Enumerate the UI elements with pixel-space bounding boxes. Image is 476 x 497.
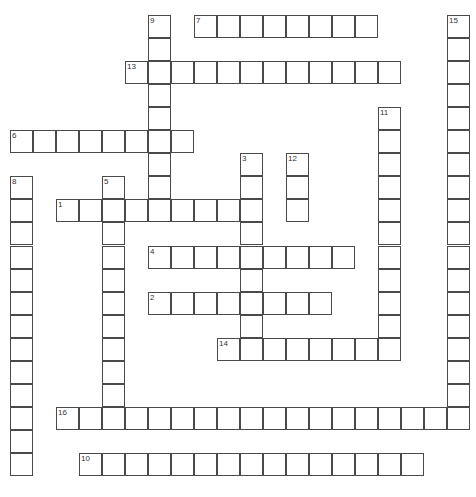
crossword-cell[interactable] [332, 453, 355, 476]
crossword-cell[interactable] [355, 407, 378, 430]
crossword-cell[interactable] [79, 199, 102, 222]
crossword-cell[interactable] [240, 199, 263, 222]
crossword-cell[interactable]: 4 [148, 246, 171, 269]
crossword-cell[interactable] [171, 61, 194, 84]
crossword-cell[interactable] [102, 269, 125, 292]
crossword-cell[interactable]: 1 [56, 199, 79, 222]
crossword-cell[interactable]: 11 [378, 107, 401, 130]
crossword-cell[interactable] [102, 384, 125, 407]
crossword-cell[interactable] [194, 199, 217, 222]
crossword-cell[interactable] [401, 407, 424, 430]
crossword-cell[interactable] [102, 199, 125, 222]
crossword-cell[interactable] [194, 61, 217, 84]
crossword-cell[interactable] [171, 130, 194, 153]
crossword-cell[interactable] [263, 292, 286, 315]
crossword-cell[interactable] [332, 407, 355, 430]
crossword-cell[interactable] [79, 130, 102, 153]
crossword-cell[interactable] [332, 246, 355, 269]
crossword-cell[interactable] [148, 176, 171, 199]
crossword-cell[interactable] [286, 292, 309, 315]
crossword-cell[interactable] [148, 453, 171, 476]
crossword-cell[interactable] [378, 130, 401, 153]
crossword-cell[interactable] [286, 407, 309, 430]
crossword-cell[interactable] [33, 130, 56, 153]
crossword-cell[interactable] [447, 130, 470, 153]
crossword-cell[interactable] [10, 384, 33, 407]
crossword-cell[interactable] [332, 15, 355, 38]
crossword-cell[interactable] [309, 246, 332, 269]
crossword-cell[interactable] [286, 246, 309, 269]
crossword-cell[interactable] [240, 61, 263, 84]
crossword-cell[interactable] [10, 199, 33, 222]
crossword-cell[interactable] [309, 453, 332, 476]
crossword-cell[interactable] [378, 453, 401, 476]
crossword-cell[interactable] [171, 199, 194, 222]
crossword-cell[interactable]: 3 [240, 153, 263, 176]
crossword-cell[interactable] [263, 15, 286, 38]
crossword-cell[interactable] [148, 84, 171, 107]
crossword-cell[interactable] [194, 246, 217, 269]
crossword-cell[interactable] [447, 153, 470, 176]
crossword-cell[interactable] [10, 315, 33, 338]
crossword-cell[interactable] [10, 407, 33, 430]
crossword-cell[interactable] [378, 338, 401, 361]
crossword-cell[interactable] [424, 407, 447, 430]
crossword-cell[interactable] [378, 222, 401, 245]
crossword-cell[interactable] [447, 407, 470, 430]
crossword-cell[interactable] [171, 292, 194, 315]
crossword-cell[interactable] [10, 361, 33, 384]
crossword-cell[interactable] [378, 61, 401, 84]
crossword-cell[interactable] [217, 15, 240, 38]
crossword-cell[interactable]: 9 [148, 15, 171, 38]
crossword-cell[interactable] [263, 338, 286, 361]
crossword-cell[interactable] [102, 315, 125, 338]
crossword-cell[interactable] [102, 292, 125, 315]
crossword-cell[interactable] [102, 407, 125, 430]
crossword-cell[interactable] [240, 246, 263, 269]
crossword-cell[interactable] [447, 315, 470, 338]
crossword-cell[interactable]: 10 [79, 453, 102, 476]
crossword-cell[interactable] [148, 199, 171, 222]
crossword-cell[interactable] [148, 153, 171, 176]
crossword-cell[interactable] [125, 130, 148, 153]
crossword-cell[interactable] [102, 338, 125, 361]
crossword-cell[interactable] [378, 269, 401, 292]
crossword-cell[interactable] [286, 61, 309, 84]
crossword-cell[interactable]: 6 [10, 130, 33, 153]
crossword-cell[interactable] [332, 338, 355, 361]
crossword-cell[interactable] [263, 61, 286, 84]
crossword-cell[interactable] [378, 153, 401, 176]
crossword-cell[interactable] [217, 61, 240, 84]
crossword-cell[interactable]: 15 [447, 15, 470, 38]
crossword-cell[interactable] [447, 199, 470, 222]
crossword-cell[interactable]: 8 [10, 176, 33, 199]
crossword-cell[interactable] [401, 453, 424, 476]
crossword-cell[interactable] [447, 176, 470, 199]
crossword-cell[interactable]: 13 [125, 61, 148, 84]
crossword-cell[interactable] [378, 315, 401, 338]
crossword-cell[interactable] [378, 407, 401, 430]
crossword-cell[interactable] [447, 61, 470, 84]
crossword-cell[interactable] [217, 199, 240, 222]
crossword-cell[interactable]: 16 [56, 407, 79, 430]
crossword-cell[interactable] [309, 407, 332, 430]
crossword-cell[interactable] [56, 130, 79, 153]
crossword-cell[interactable] [125, 199, 148, 222]
crossword-cell[interactable] [447, 38, 470, 61]
crossword-cell[interactable] [263, 453, 286, 476]
crossword-cell[interactable] [79, 407, 102, 430]
crossword-cell[interactable] [240, 176, 263, 199]
crossword-cell[interactable] [171, 246, 194, 269]
crossword-cell[interactable] [240, 292, 263, 315]
crossword-cell[interactable] [10, 453, 33, 476]
crossword-cell[interactable] [102, 453, 125, 476]
crossword-cell[interactable] [148, 407, 171, 430]
crossword-cell[interactable] [378, 176, 401, 199]
crossword-cell[interactable] [286, 453, 309, 476]
crossword-cell[interactable] [102, 361, 125, 384]
crossword-cell[interactable] [194, 453, 217, 476]
crossword-cell[interactable] [217, 453, 240, 476]
crossword-cell[interactable] [240, 338, 263, 361]
crossword-cell[interactable] [332, 61, 355, 84]
crossword-cell[interactable] [447, 107, 470, 130]
